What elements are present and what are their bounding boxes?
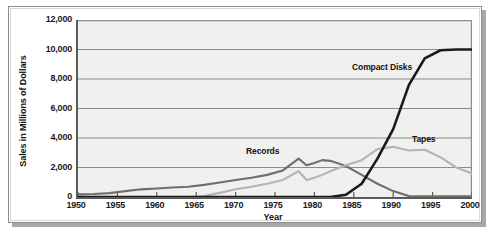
x-tick-label: 1985 [332,200,372,210]
x-tick-label: 1990 [371,200,411,210]
x-tick-label: 2000 [450,200,490,210]
series-label-compact-disks: Compact Disks [352,62,412,72]
y-axis-tick-labels: 02,0004,0006,0008,00010,00012,000 [8,20,72,197]
series-lines [78,50,472,198]
series-label-tapes: Tapes [412,134,435,144]
y-tick-label: 6,000 [10,103,72,113]
x-tick-label: 1970 [214,200,254,210]
series-line-records [78,159,472,197]
x-tick-label: 1975 [253,200,293,210]
gridlines [78,20,472,197]
x-tick-label: 1955 [95,200,135,210]
x-tick-label: 1960 [135,200,175,210]
x-tick-label: 1980 [292,200,332,210]
y-tick-label: 2,000 [10,162,72,172]
plot-area [76,20,472,199]
y-tick-label: 12,000 [10,14,72,24]
x-tick-label: 1995 [411,200,451,210]
y-tick-label: 8,000 [10,73,72,83]
y-tick-label: 4,000 [10,132,72,142]
series-line-compact-disks [78,50,472,198]
chart-figure: Sales in Millions of Dollars 02,0004,000… [0,0,498,240]
y-tick-label: 10,000 [10,44,72,54]
series-label-records: Records [246,146,279,156]
x-tick-label: 1950 [56,200,96,210]
chart-canvas [78,20,472,197]
x-axis-title: Year [76,212,470,222]
x-tick-label: 1965 [174,200,214,210]
